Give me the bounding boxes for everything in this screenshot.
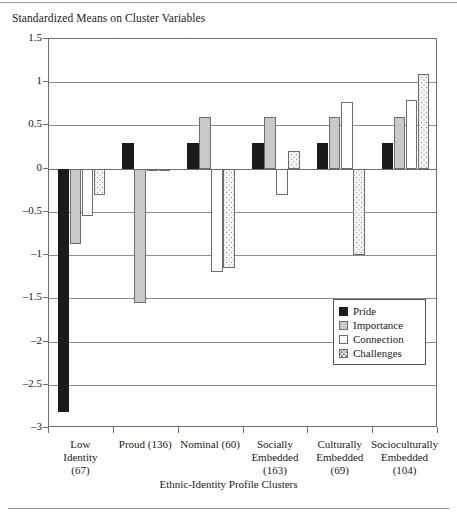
bar-group xyxy=(308,39,373,426)
x-category-label-line: (67) xyxy=(40,464,121,477)
legend-item-connection[interactable]: Connection xyxy=(339,332,420,346)
y-tick-label: –1 xyxy=(8,247,42,259)
bar-group xyxy=(179,39,244,426)
x-tick-mark xyxy=(372,427,373,433)
x-tick-mark xyxy=(437,427,438,433)
legend-label: Pride xyxy=(353,305,376,317)
bar-connection xyxy=(211,169,223,273)
bar-group xyxy=(49,39,114,426)
bar-pride xyxy=(122,143,134,169)
legend-label: Challenges xyxy=(353,347,402,359)
bar-importance xyxy=(329,117,341,169)
y-tick-label: –2.5 xyxy=(8,377,42,389)
bar-pride xyxy=(58,169,70,413)
bar-importance xyxy=(134,169,146,303)
y-tick-label: –0.5 xyxy=(8,204,42,216)
plot-area xyxy=(48,38,437,427)
bar-importance xyxy=(394,117,406,169)
bar-connection xyxy=(276,169,288,195)
bar-connection xyxy=(82,169,94,217)
x-category-label-line: (104) xyxy=(364,464,445,477)
top-divider xyxy=(0,2,457,3)
bar-challenges xyxy=(418,74,430,169)
bar-challenges xyxy=(223,169,235,268)
legend-item-challenges[interactable]: Challenges xyxy=(339,346,420,360)
x-tick-mark xyxy=(48,427,49,433)
legend-item-pride[interactable]: Pride xyxy=(339,304,420,318)
x-category-label-line: Identity xyxy=(40,451,121,464)
bar-connection xyxy=(406,100,418,169)
y-tick-label: 0.5 xyxy=(8,117,42,129)
legend-swatch-pride-icon xyxy=(339,307,348,316)
legend-item-importance[interactable]: Importance xyxy=(339,318,420,332)
x-tick-mark xyxy=(307,427,308,433)
bar-challenges xyxy=(353,169,365,255)
x-tick-mark xyxy=(178,427,179,433)
x-axis-title: Ethnic-Identity Profile Clusters xyxy=(0,478,457,490)
y-tick-label: –1.5 xyxy=(8,290,42,302)
bar-pride xyxy=(382,143,394,169)
legend-label: Connection xyxy=(353,333,404,345)
legend-swatch-challenges-icon xyxy=(339,349,348,358)
x-category-label-line: Socioculturally xyxy=(364,438,445,451)
bar-challenges xyxy=(288,151,300,169)
x-tick-mark xyxy=(243,427,244,433)
bar-connection xyxy=(147,169,159,171)
bar-group xyxy=(373,39,438,426)
bar-group xyxy=(114,39,179,426)
bar-group xyxy=(244,39,309,426)
bar-importance xyxy=(199,117,211,169)
bar-importance xyxy=(70,169,82,244)
bar-challenges xyxy=(159,169,171,171)
bar-pride xyxy=(252,143,264,169)
bar-pride xyxy=(187,143,199,169)
bar-pride xyxy=(317,143,329,169)
y-tick-label: –3 xyxy=(8,420,42,432)
legend-swatch-connection-icon xyxy=(339,335,348,344)
bar-importance xyxy=(264,117,276,169)
x-category-label: SocioculturallyEmbedded(104) xyxy=(364,438,445,477)
y-tick-label: 1.5 xyxy=(8,31,42,43)
chart-title: Standardized Means on Cluster Variables xyxy=(12,12,205,24)
legend-swatch-importance-icon xyxy=(339,321,348,330)
y-tick-label: –2 xyxy=(8,334,42,346)
legend: PrideImportanceConnectionChallenges xyxy=(333,299,426,365)
figure: Standardized Means on Cluster Variables … xyxy=(0,0,457,523)
bottom-divider xyxy=(8,508,449,509)
legend-label: Importance xyxy=(353,319,403,331)
y-tick-label: 0 xyxy=(8,161,42,173)
bar-challenges xyxy=(94,169,106,195)
x-tick-mark xyxy=(113,427,114,433)
bar-connection xyxy=(341,102,353,169)
x-category-label-line: Embedded xyxy=(364,451,445,464)
y-tick-label: 1 xyxy=(8,74,42,86)
